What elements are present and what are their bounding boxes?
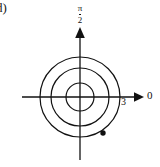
polar-graph-figure: d) 0 3 π 2	[0, 0, 160, 167]
polar-plot-canvas	[0, 0, 160, 167]
marked-point	[100, 130, 105, 135]
radial-tick-label-3: 3	[121, 97, 126, 107]
fraction-denominator: 2	[78, 16, 83, 25]
pi-over-two-fraction: π 2	[78, 4, 83, 25]
polar-axis-arrowhead	[134, 92, 144, 102]
pi-over-two-axis-arrowhead	[75, 27, 85, 38]
pi-over-two-axis	[75, 27, 85, 160]
polar-axis-label: 0	[147, 90, 153, 101]
fraction-numerator: π	[78, 4, 83, 13]
pi-over-two-axis-label: π 2	[73, 4, 87, 25]
